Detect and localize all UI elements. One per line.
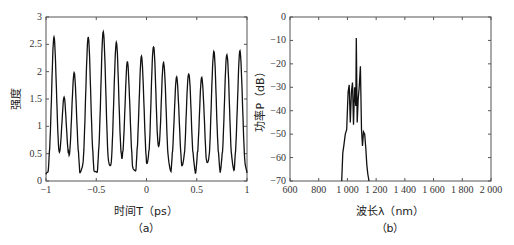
y-tick-label: 1 bbox=[37, 120, 42, 131]
x-tick-label: 0 bbox=[144, 184, 149, 195]
y-tick-label: 0 bbox=[37, 175, 42, 186]
y-tick-label: 2 bbox=[37, 66, 42, 77]
x-tick-label: 1 800 bbox=[451, 184, 474, 195]
y-tick-label: 2.5 bbox=[30, 38, 43, 49]
y-tick-label: 1.5 bbox=[30, 93, 43, 104]
b-xlabel: 波长λ（nm） bbox=[356, 205, 424, 218]
b-ylabel: 功率P（dB） bbox=[253, 66, 267, 131]
axes-frame bbox=[290, 17, 491, 181]
a-xlabel: 时间T（ps） bbox=[114, 205, 177, 218]
a-caption: （a） bbox=[132, 222, 161, 235]
x-tick-label: −1 bbox=[41, 184, 52, 195]
x-tick-label: 1 bbox=[245, 184, 250, 195]
y-tick-label: 0.5 bbox=[30, 148, 43, 159]
y-tick-label: −10 bbox=[270, 34, 286, 45]
y-tick-label: −50 bbox=[270, 128, 286, 139]
intensity-line bbox=[46, 32, 247, 175]
spectrum-line bbox=[342, 38, 369, 181]
a-ylabel: 强度 bbox=[9, 88, 23, 110]
x-tick-label: 1 400 bbox=[394, 184, 417, 195]
y-tick-label: −70 bbox=[270, 175, 286, 186]
x-tick-label: 1 600 bbox=[422, 184, 445, 195]
y-tick-label: −20 bbox=[270, 58, 286, 69]
y-tick-label: −30 bbox=[270, 81, 286, 92]
x-tick-label: 1 000 bbox=[336, 184, 359, 195]
y-tick-label: 0 bbox=[281, 11, 286, 22]
figure: −1−0.500.5100.511.522.53 6008001 0001 20… bbox=[0, 0, 514, 245]
x-tick-label: 0.5 bbox=[191, 184, 204, 195]
y-tick-label: −60 bbox=[270, 152, 286, 163]
power-wavelength-plot: 6008001 0001 2001 4001 6001 8002 0000−10… bbox=[270, 11, 502, 195]
x-tick-label: 2 000 bbox=[480, 184, 503, 195]
y-tick-label: 3 bbox=[37, 11, 42, 22]
x-tick-label: 1 200 bbox=[365, 184, 388, 195]
x-tick-label: 800 bbox=[311, 184, 326, 195]
x-tick-label: −0.5 bbox=[87, 184, 105, 195]
y-tick-label: −40 bbox=[270, 105, 286, 116]
b-caption: （b） bbox=[376, 222, 405, 235]
intensity-time-plot: −1−0.500.5100.511.522.53 bbox=[30, 11, 250, 195]
